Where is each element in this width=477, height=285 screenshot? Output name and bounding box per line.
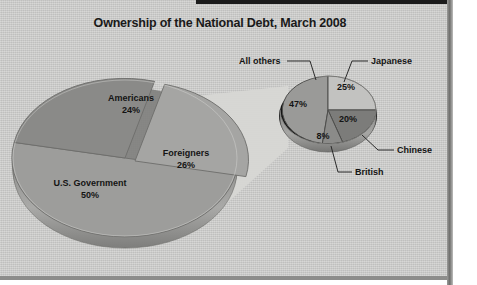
breakout-slice-percent-chinese: 20% xyxy=(333,114,363,125)
main-slice-percent-americans: 24% xyxy=(86,105,176,116)
breakout-callout-chinese: Chinese xyxy=(397,145,432,156)
chart-panel: Ownership of the National Debt, March 20… xyxy=(0,0,452,280)
breakout-slice-percent-all-others: 47% xyxy=(283,99,313,110)
main-slice-percent-foreigners: 26% xyxy=(140,160,232,171)
screenshot-root: Ownership of the National Debt, March 20… xyxy=(0,0,477,285)
breakout-callout-japanese: Japanese xyxy=(371,56,412,67)
leader-line-all-others xyxy=(287,61,316,80)
main-slice-label-americans: Americans xyxy=(86,93,176,104)
main-slice-label-foreigners: Foreigners xyxy=(140,148,232,159)
breakout-slice-percent-japanese: 25% xyxy=(331,82,361,93)
pie-chart-graphic xyxy=(0,0,452,280)
main-slice-label-us-government: U.S. Government xyxy=(28,178,152,189)
page-margin-right xyxy=(453,0,477,285)
main-slice-percent-us-government: 50% xyxy=(28,190,152,201)
breakout-callout-all-others: All others xyxy=(239,56,281,67)
breakout-slice-percent-british: 8% xyxy=(311,131,335,142)
breakout-callout-british: British xyxy=(355,167,384,178)
